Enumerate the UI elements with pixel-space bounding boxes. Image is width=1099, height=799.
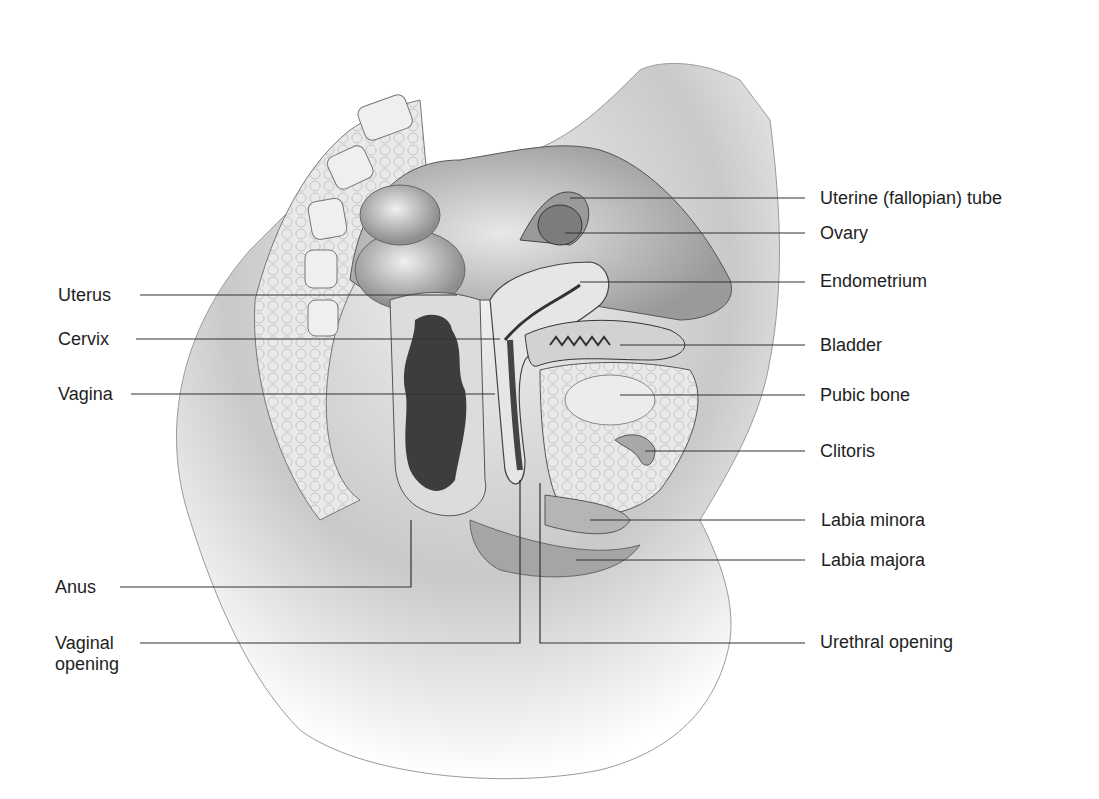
label-labia-majora: Labia majora <box>821 550 925 571</box>
pubic-bone-shape <box>565 375 655 425</box>
label-ovary: Ovary <box>820 223 868 244</box>
label-endometrium: Endometrium <box>820 271 927 292</box>
label-uterine-tube: Uterine (fallopian) tube <box>820 188 1002 209</box>
label-cervix: Cervix <box>58 329 109 350</box>
ovary-shape <box>538 205 582 245</box>
label-pubic-bone: Pubic bone <box>820 385 910 406</box>
bowel-loop <box>360 185 440 245</box>
label-anus: Anus <box>55 577 96 598</box>
label-urethral-opening: Urethral opening <box>820 632 953 653</box>
label-labia-minora: Labia minora <box>821 510 925 531</box>
bladder-shape <box>525 320 685 366</box>
label-bladder: Bladder <box>820 335 882 356</box>
rectum-lumen <box>404 315 466 491</box>
anatomy-illustration <box>0 0 1099 799</box>
label-clitoris: Clitoris <box>820 441 875 462</box>
label-uterus: Uterus <box>58 285 111 306</box>
anatomy-figure: Uterus Cervix Vagina Anus Vaginal openin… <box>0 0 1099 799</box>
label-vagina: Vagina <box>58 384 113 405</box>
label-vaginal-opening: Vaginal opening <box>55 633 145 675</box>
